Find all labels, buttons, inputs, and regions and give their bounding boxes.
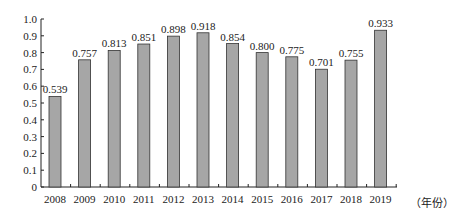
- bar-2009: [79, 60, 91, 187]
- data-label: 0.854: [220, 31, 245, 43]
- data-label: 0.775: [279, 44, 304, 56]
- y-tick-label: 0.4: [23, 114, 37, 126]
- y-tick-label: 0.6: [23, 80, 37, 92]
- x-tick-label: 2017: [310, 193, 333, 205]
- x-tick-label: 2012: [162, 193, 184, 205]
- y-tick-label: 0.5: [23, 97, 37, 109]
- x-tick-label: 2009: [74, 193, 97, 205]
- bar-2018: [345, 60, 357, 187]
- bar-2016: [286, 57, 298, 187]
- data-label: 0.701: [309, 56, 334, 68]
- data-label: 0.898: [161, 23, 186, 35]
- data-label: 0.755: [339, 47, 364, 59]
- data-label: 0.851: [131, 31, 156, 43]
- x-axis-title: （年份）: [410, 196, 454, 209]
- y-tick-label: 0: [32, 181, 38, 193]
- x-tick-label: 2008: [44, 193, 67, 205]
- bar-2013: [197, 33, 209, 187]
- x-tick-label: 2011: [133, 193, 155, 205]
- x-tick-label: 2016: [281, 193, 304, 205]
- y-tick-label: 0.8: [23, 47, 37, 59]
- bar-2019: [375, 30, 387, 187]
- y-tick-label: 0.1: [23, 164, 37, 176]
- bar-2017: [315, 69, 327, 187]
- bar-2011: [138, 44, 150, 187]
- y-tick-label: 1.0: [23, 13, 37, 25]
- x-tick-label: 2015: [251, 193, 274, 205]
- data-label: 0.539: [43, 83, 68, 95]
- y-tick-label: 0.2: [23, 147, 37, 159]
- y-tick-label: 0.7: [23, 63, 37, 75]
- y-tick-label: 0.3: [23, 131, 37, 143]
- bar-2015: [256, 53, 268, 187]
- x-tick-label: 2014: [222, 193, 245, 205]
- bar-2014: [227, 44, 239, 187]
- bars: 0.5390.7570.8130.8510.8980.9180.8540.800…: [43, 17, 394, 187]
- y-axis: 00.10.20.30.40.50.60.70.80.91.0: [23, 13, 44, 193]
- x-tick-label: 2010: [103, 193, 126, 205]
- data-label: 0.813: [102, 37, 127, 49]
- data-label: 0.800: [250, 40, 275, 52]
- bar-2008: [49, 96, 61, 187]
- x-tick-label: 2013: [192, 193, 215, 205]
- x-tick-label: 2019: [370, 193, 393, 205]
- y-tick-label: 0.9: [23, 30, 37, 42]
- bar-2010: [108, 50, 120, 187]
- bar-chart: 00.10.20.30.40.50.60.70.80.91.0 20082009…: [0, 0, 454, 216]
- data-label: 0.918: [191, 20, 216, 32]
- x-axis: 2008200920102011201220132014201520162017…: [41, 184, 397, 205]
- bar-2012: [167, 36, 179, 187]
- data-label: 0.933: [368, 17, 393, 29]
- x-tick-label: 2018: [340, 193, 363, 205]
- data-label: 0.757: [72, 47, 97, 59]
